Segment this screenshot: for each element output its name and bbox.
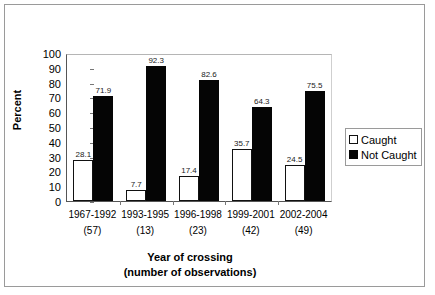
bar-not-caught[interactable] [199,80,219,201]
x-axis-category: 1993-1995(13) [116,207,175,239]
bar-group: 17.482.6 [173,55,226,201]
x-axis-tick-mark [173,201,174,205]
chart-legend: Caught Not Caught [345,128,422,166]
y-axis-tick-label: 10 [28,182,61,193]
y-axis-tick-label: 80 [28,79,61,90]
legend-item-label: Not Caught [361,149,417,161]
y-axis-tick-label: 40 [28,138,61,149]
black-square-icon [349,150,358,159]
x-axis-category: 1967-1992(57) [63,207,122,239]
bar-caught[interactable] [232,149,252,201]
bar-caught[interactable] [285,165,305,201]
category-range-label: 2002-2004 [274,207,333,223]
bar-caught[interactable] [179,176,199,201]
bar-value-label: 75.5 [298,81,332,90]
bar-group: 35.764.3 [225,55,278,201]
category-range-label: 1996-1998 [169,207,228,223]
bar-value-label: 71.9 [86,86,120,95]
bar-caught[interactable] [126,190,146,201]
x-axis-category-labels: 1967-1992(57)1993-1995(13)1996-1998(23)1… [60,207,338,249]
y-axis-tick-mark [90,202,94,203]
bar-group: 7.792.3 [120,55,173,201]
legend-item-not-caught[interactable]: Not Caught [349,147,417,162]
y-axis-title: Percent [11,75,23,145]
white-square-icon [349,135,358,144]
bar-value-label: 64.3 [245,97,279,106]
bar-not-caught[interactable] [146,66,166,201]
category-range-label: 1993-1995 [116,207,175,223]
y-axis-tick-label: 60 [28,108,61,119]
y-axis-tick-labels: 1009080706050403020100 [28,46,61,210]
legend-item-caught[interactable]: Caught [349,132,417,147]
category-observation-count: (42) [221,223,280,239]
x-axis-tick-mark [120,201,121,205]
bar-not-caught[interactable] [93,96,113,201]
category-range-label: 1999-2001 [221,207,280,223]
x-axis-category: 1996-1998(23) [169,207,228,239]
x-axis-category: 2002-2004(49) [274,207,333,239]
y-axis-tick-label: 20 [28,167,61,178]
bar-value-label: 82.6 [192,70,226,79]
bar-not-caught[interactable] [305,91,325,201]
category-observation-count: (13) [116,223,175,239]
x-axis-tick-mark [278,201,279,205]
x-axis-tick-mark [225,201,226,205]
category-observation-count: (23) [169,223,228,239]
x-axis-title-line1: Year of crossing [147,251,233,263]
bar-caught[interactable] [73,160,93,201]
x-axis-title: Year of crossing (number of observations… [40,250,340,280]
legend-item-label: Caught [361,134,396,146]
y-axis-tick-label: 100 [28,49,61,60]
bar-not-caught[interactable] [252,107,272,201]
category-observation-count: (57) [63,223,122,239]
y-axis-tick-label: 0 [28,197,61,208]
y-axis-tick-label: 70 [28,93,61,104]
plot-area: 28.171.97.792.317.482.635.764.324.575.5 [66,54,332,202]
chart-figure: Percent 1009080706050403020100 28.171.97… [0,0,435,295]
x-axis-title-line2: (number of observations) [40,265,340,280]
y-axis-tick-label: 90 [28,64,61,75]
category-range-label: 1967-1992 [63,207,122,223]
y-axis-tick-label: 30 [28,153,61,164]
bar-group: 24.575.5 [278,55,331,201]
category-observation-count: (49) [274,223,333,239]
bar-value-label: 92.3 [139,56,173,65]
y-axis-tick-label: 50 [28,123,61,134]
x-axis-category: 1999-2001(42) [221,207,280,239]
bar-group: 28.171.9 [67,55,120,201]
